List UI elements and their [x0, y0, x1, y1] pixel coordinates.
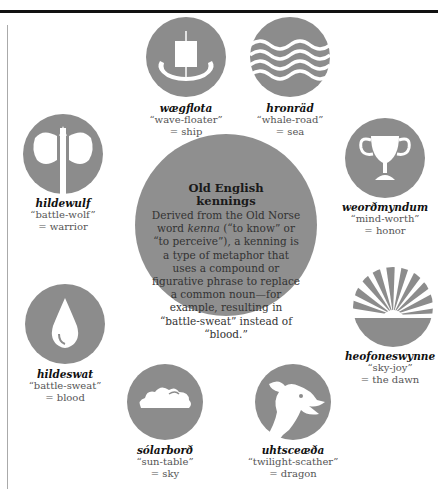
trophy-cup-icon	[345, 118, 425, 198]
kenning-meaning: = dragon	[233, 468, 353, 480]
kenning-meaning: = honor	[325, 225, 445, 237]
center-circle: Old English kennings Derived from the Ol…	[135, 134, 317, 316]
kenning-meaning: = sea	[230, 126, 350, 138]
cloud-icon	[127, 364, 203, 440]
center-description: Derived from the Old Norse word kenna (“…	[151, 209, 301, 341]
viking-ship-icon	[146, 17, 226, 97]
sunrise-icon	[353, 267, 433, 347]
kenning-label-ship: wægflota “wave-floater” = ship	[126, 102, 246, 138]
kenning-label-dragon: uhtsceæða “twilight-scather” = dragon	[233, 444, 353, 480]
kenning-label-dawn: heofoneswynne “sky-joy” = the dawn	[330, 350, 447, 386]
kenning-meaning: = ship	[126, 126, 246, 138]
side-rule	[7, 25, 8, 489]
waves-icon	[250, 17, 330, 97]
kenning-label-sea: hronräd “whale-road” = sea	[230, 102, 350, 138]
kenning-term: uhtsceæða	[233, 444, 353, 456]
kenning-term: hildewulf	[3, 197, 123, 209]
kenning-meaning: = the dawn	[330, 374, 447, 386]
kenning-label-warrior: hildewulf “battle-wolf” = warrior	[3, 197, 123, 233]
kenning-label-honor: weorðmyndum “mind-worth” = honor	[325, 201, 445, 237]
kenning-literal: “battle-wolf”	[3, 209, 123, 221]
kenning-literal: “sun-table”	[105, 456, 225, 468]
kenning-label-blood: hildeswat “battle-sweat” = blood	[5, 368, 125, 404]
body-italic-word: kenna	[187, 222, 219, 234]
kenning-meaning: = warrior	[3, 221, 123, 233]
kenning-literal: “sky-joy”	[330, 362, 447, 374]
blood-drop-icon	[25, 284, 105, 364]
kenning-term: weorðmyndum	[325, 201, 445, 213]
kenning-meaning: = sky	[105, 468, 225, 480]
title-line-2: kennings	[135, 195, 317, 208]
battle-axe-icon	[23, 114, 103, 194]
kenning-label-sky: sólarborð “sun-table” = sky	[105, 444, 225, 480]
kenning-literal: “mind-worth”	[325, 213, 445, 225]
kenning-literal: “battle-sweat”	[5, 380, 125, 392]
kenning-term: hildeswat	[5, 368, 125, 380]
kenning-literal: “twilight-scather”	[233, 456, 353, 468]
center-title: Old English kennings	[135, 182, 317, 208]
dragon-head-icon	[255, 364, 331, 440]
kenning-literal: “whale-road”	[230, 114, 350, 126]
kenning-term: hronräd	[230, 102, 350, 114]
kenning-term: heofoneswynne	[330, 350, 447, 362]
kenning-term: wægflota	[126, 102, 246, 114]
kenning-literal: “wave-floater”	[126, 114, 246, 126]
kenning-meaning: = blood	[5, 392, 125, 404]
kenning-term: sólarborð	[105, 444, 225, 456]
body-post: (“to know” or “to perceive”), a kenning …	[152, 222, 300, 340]
top-rule	[0, 10, 438, 13]
